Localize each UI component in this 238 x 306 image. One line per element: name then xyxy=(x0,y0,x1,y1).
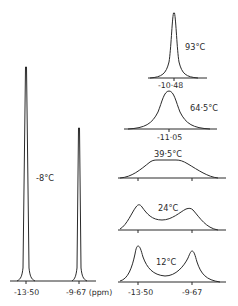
spectrum-93c: 93°C -10·48 xyxy=(148,13,207,90)
temp-label-minus-8: -8°C xyxy=(36,173,54,183)
tick-label-10-48: -10·48 xyxy=(158,81,183,90)
spectrum-24c: 24°C xyxy=(118,203,226,233)
tick-label-13-50-bottom: -13·50 xyxy=(128,288,153,297)
temp-label-12: 12°C xyxy=(156,257,177,267)
temp-label-39-5: 39·5°C xyxy=(154,149,182,159)
tick-label-9-67-bottom: -9·67 xyxy=(182,288,202,297)
peak-9-67 xyxy=(72,128,87,281)
peak-13-50 xyxy=(17,67,35,281)
spectrum-64-5c: 64·5°C -11·05 xyxy=(124,91,218,142)
spectrum-39-5c: 39·5°C xyxy=(118,149,226,181)
spectrum-minus-8c: -8°C -13·50 -9·67 (ppm) xyxy=(10,67,112,297)
coalescence-band xyxy=(120,160,218,178)
temp-label-64-5: 64·5°C xyxy=(190,103,218,113)
tick-label-9-67-ppm: -9·67 (ppm) xyxy=(66,288,112,297)
tick-label-13-50-left: -13·50 xyxy=(14,288,39,297)
temp-label-93: 93°C xyxy=(185,42,206,52)
temp-label-24: 24°C xyxy=(158,203,179,213)
tick-label-11-05: -11·05 xyxy=(157,133,182,142)
spectrum-12c: 12°C -13·50 -9·67 xyxy=(118,246,226,297)
nmr-spectra-figure: -8°C -13·50 -9·67 (ppm) 93°C -10·48 64·5… xyxy=(0,0,238,306)
